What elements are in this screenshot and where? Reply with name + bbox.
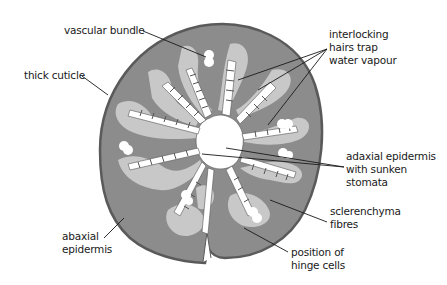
label-hinge-cells: position of hinge cells [291, 246, 345, 272]
label-adaxial-epidermis: adaxial epidermis with sunken stomata [346, 150, 436, 189]
label-sclerenchyma-fibres: sclerenchyma fibres [330, 205, 401, 231]
label-interlocking-hairs: interlocking hairs trap water vapour [329, 28, 397, 67]
label-thick-cuticle: thick cuticle [24, 69, 85, 82]
label-vascular-bundle: vascular bundle [64, 24, 145, 37]
label-abaxial-epidermis: abaxial epidermis [62, 230, 112, 256]
